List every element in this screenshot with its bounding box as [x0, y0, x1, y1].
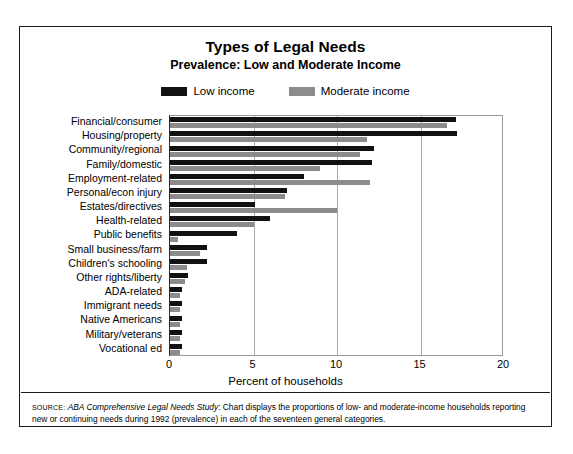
bar-moderate-income — [170, 307, 180, 312]
bar-row — [170, 146, 502, 159]
chart-subtitle: Prevalence: Low and Moderate Income — [20, 57, 551, 73]
y-axis-label: Other rights/liberty — [76, 272, 162, 283]
y-axis-label: Public benefits — [94, 229, 162, 240]
y-axis-label: Employment-related — [68, 173, 162, 184]
y-axis-label: Housing/property — [82, 130, 162, 141]
bar-moderate-income — [170, 336, 180, 341]
y-axis-label: Financial/consumer — [71, 116, 162, 127]
x-axis-title: Percent of households — [20, 375, 551, 387]
y-axis-label: Small business/farm — [67, 244, 162, 255]
bar-low-income — [170, 287, 182, 292]
bar-moderate-income — [170, 180, 370, 185]
bar-moderate-income — [170, 208, 337, 213]
bar-low-income — [170, 231, 237, 236]
bar-moderate-income — [170, 194, 285, 199]
bar-low-income — [170, 301, 182, 306]
x-tick-label-0: 0 — [166, 358, 172, 370]
y-axis-label: ADA-related — [105, 286, 162, 297]
bar-moderate-income — [170, 322, 180, 327]
y-axis-label: Military/veterans — [86, 329, 162, 340]
chart-legend: Low income Moderate income — [20, 85, 551, 97]
legend-label-low-income: Low income — [193, 85, 254, 97]
source-study-title: ABA Comprehensive Legal Needs Study — [68, 402, 219, 412]
bar-moderate-income — [170, 123, 447, 128]
bar-low-income — [170, 216, 270, 221]
bar-low-income — [170, 259, 207, 264]
bar-low-income — [170, 160, 372, 165]
bar-low-income — [170, 146, 374, 151]
bar-row — [170, 174, 502, 187]
y-axis-label: Immigrant needs — [84, 300, 162, 311]
x-tick-label-20: 20 — [497, 358, 509, 370]
bar-low-income — [170, 316, 182, 321]
bar-row — [170, 245, 502, 258]
bar-row — [170, 330, 502, 343]
bar-low-income — [170, 330, 182, 335]
bar-low-income — [170, 273, 188, 278]
page-title: Types of Legal Needs — [20, 38, 551, 56]
bar-low-income — [170, 131, 457, 136]
bar-low-income — [170, 202, 255, 207]
bar-moderate-income — [170, 350, 180, 355]
x-tick-label-5: 5 — [249, 358, 255, 370]
title-block: Types of Legal Needs Prevalence: Low and… — [20, 38, 551, 73]
bar-row — [170, 259, 502, 272]
legend-item-moderate-income: Moderate income — [289, 85, 410, 97]
source-note: SOURCE: ABA Comprehensive Legal Needs St… — [32, 402, 539, 424]
bar-row — [170, 273, 502, 286]
bar-row — [170, 117, 502, 130]
bar-moderate-income — [170, 251, 200, 256]
bar-moderate-income — [170, 279, 185, 284]
bar-low-income — [170, 245, 207, 250]
bar-moderate-income — [170, 265, 187, 270]
bar-moderate-income — [170, 152, 360, 157]
bar-low-income — [170, 117, 456, 122]
bar-row — [170, 160, 502, 173]
source-divider — [21, 392, 550, 393]
bar-row — [170, 301, 502, 314]
bar-rows — [170, 116, 502, 355]
bar-moderate-income — [170, 222, 254, 227]
legend-swatch-moderate-income — [289, 87, 315, 96]
y-axis-label: Personal/econ injury — [67, 187, 162, 198]
y-axis-label: Native Americans — [80, 314, 162, 325]
bar-moderate-income — [170, 237, 178, 242]
bar-low-income — [170, 344, 182, 349]
x-tick-label-15: 15 — [413, 358, 425, 370]
y-axis-label: Vocational ed — [99, 343, 162, 354]
legend-label-moderate-income: Moderate income — [321, 85, 410, 97]
source-label: SOURCE: — [32, 404, 65, 411]
bar-low-income — [170, 174, 304, 179]
bar-row — [170, 231, 502, 244]
bar-moderate-income — [170, 166, 320, 171]
bar-low-income — [170, 188, 287, 193]
y-axis-label: Health-related — [96, 215, 162, 226]
bar-row — [170, 216, 502, 229]
bar-row — [170, 316, 502, 329]
bar-row — [170, 344, 502, 357]
y-axis-label: Family/domestic — [86, 159, 162, 170]
bar-row — [170, 202, 502, 215]
y-axis-label: Community/regional — [69, 144, 162, 155]
plot-area — [169, 115, 503, 356]
y-axis-category-labels: Financial/consumerHousing/propertyCommun… — [20, 115, 166, 356]
x-tick-label-10: 10 — [330, 358, 342, 370]
bar-moderate-income — [170, 137, 367, 142]
legend-item-low-income: Low income — [161, 85, 254, 97]
y-axis-label: Estates/directives — [80, 201, 162, 212]
bar-row — [170, 131, 502, 144]
bar-row — [170, 188, 502, 201]
bar-row — [170, 287, 502, 300]
bar-moderate-income — [170, 293, 180, 298]
y-axis-label: Children's schooling — [68, 258, 162, 269]
x-axis-ticks: 05101520 — [169, 358, 503, 372]
legend-swatch-low-income — [161, 87, 187, 96]
chart-figure-frame: Types of Legal Needs Prevalence: Low and… — [19, 26, 552, 427]
